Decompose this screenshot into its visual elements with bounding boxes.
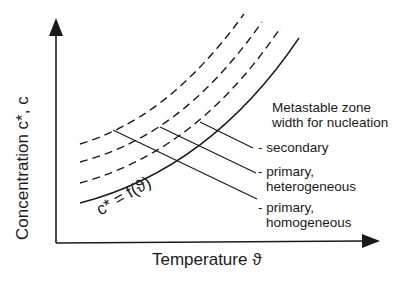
secondary-limit-curve — [80, 14, 244, 144]
legend-homogeneous-line-1: - primary, — [258, 200, 352, 215]
y-axis-label: Concentration c*, c — [13, 96, 33, 240]
homogeneous-limit-curve — [80, 22, 262, 162]
zone-title-line-1: Metastable zone — [272, 100, 388, 115]
y-axis-arrow-icon — [49, 18, 63, 36]
zone-title: Metastable zone width for nucleation — [272, 100, 388, 130]
legend-primary-heterogeneous: - primary, heterogeneous — [258, 164, 356, 194]
legend-secondary-text: - secondary — [258, 140, 329, 155]
leader-secondary — [200, 122, 253, 148]
x-axis — [56, 234, 380, 248]
leader-heterogeneous — [160, 127, 256, 173]
diagram-canvas — [0, 0, 415, 286]
legend-heterogeneous-line-1: - primary, — [258, 164, 356, 179]
y-axis — [49, 18, 63, 243]
zone-title-line-2: width for nucleation — [272, 115, 388, 130]
heterogeneous-limit-curve — [80, 27, 281, 183]
legend-secondary: - secondary — [258, 140, 329, 155]
legend-homogeneous-line-2: homogeneous — [258, 215, 352, 230]
x-axis-arrow-icon — [362, 234, 380, 248]
x-axis-label: Temperature ϑ — [152, 252, 261, 267]
legend-primary-homogeneous: - primary, homogeneous — [258, 200, 352, 230]
legend-heterogeneous-line-2: heterogeneous — [258, 179, 356, 194]
